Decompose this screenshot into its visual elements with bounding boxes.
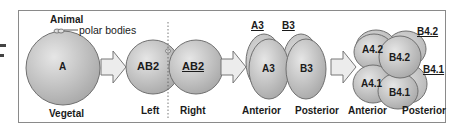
cell-ab2-left-label: AB2 xyxy=(137,61,159,72)
cell-b4-1-back-label: B4.1 xyxy=(423,65,444,75)
cell-a-label: A xyxy=(59,62,66,72)
posterior-label: Posterior xyxy=(402,106,446,116)
left-label: Left xyxy=(141,106,159,116)
arrow-right-icon xyxy=(221,51,246,83)
arrow-right-icon xyxy=(331,51,356,83)
cell-b4-1-label: B4.1 xyxy=(389,88,410,98)
cell-b4-2-back-label: B4.2 xyxy=(417,27,438,37)
anterior-label: Anterior xyxy=(242,106,281,116)
posterior-label: Posterior xyxy=(295,106,339,116)
polar-bodies-label: polar bodies xyxy=(79,25,136,36)
cell-ab2-right-label: AB2 xyxy=(182,61,204,72)
cell-a3-label: A3 xyxy=(262,64,275,74)
cell-b4-2-label: B4.2 xyxy=(389,53,410,63)
cell-b3-label: B3 xyxy=(300,64,313,74)
arrow-right-icon xyxy=(101,51,126,83)
vegetal-pole-label: Vegetal xyxy=(49,109,84,119)
anterior-label: Anterior xyxy=(348,106,387,116)
cell-a4-2-label: A4.2 xyxy=(362,45,383,55)
cell-b3-back-label: B3 xyxy=(282,21,295,31)
cell-a4-1-label: A4.1 xyxy=(361,79,382,89)
right-label: Right xyxy=(180,106,206,116)
cell-a3-back-label: A3 xyxy=(251,21,264,31)
